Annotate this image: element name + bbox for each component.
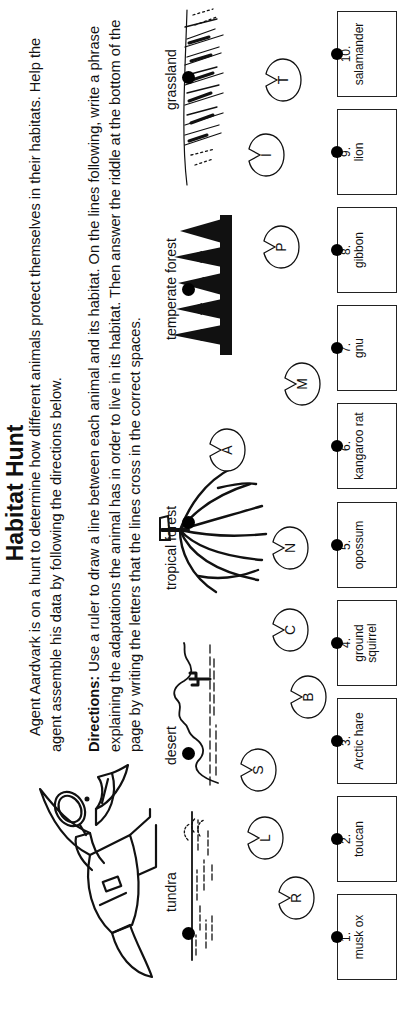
animal-name: kangaroo rat — [353, 412, 366, 479]
lily-pad-letter-t: T — [263, 57, 303, 103]
habitat-dot-tundra[interactable] — [182, 927, 195, 940]
animal-name: opossum — [353, 521, 366, 570]
animal-name: lion — [353, 143, 366, 162]
animal-name: gnu — [353, 338, 366, 358]
animal-dot-10[interactable] — [331, 48, 343, 60]
pad-letter: B — [300, 674, 316, 720]
animal-name: salamander — [353, 23, 366, 86]
animal-box-9: 9. lion — [337, 109, 397, 195]
animal-dot-4[interactable] — [331, 637, 343, 649]
habitat-dot-temperate-forest[interactable] — [182, 283, 195, 296]
animal-box-3: 3. Arctic hare — [337, 698, 397, 784]
lily-pad-letter-m: M — [282, 361, 322, 407]
animal-dot-6[interactable] — [331, 440, 343, 452]
animal-dot-2[interactable] — [331, 833, 343, 845]
lily-pad-letter-n: N — [270, 525, 310, 571]
intro-paragraph: Agent Aardvark is on a hunt to determine… — [25, 6, 66, 752]
pad-letter: R — [288, 875, 304, 921]
habitat-label-tundra: tundra — [163, 872, 179, 912]
animal-name: toucan — [353, 821, 366, 857]
animal-name: Arctic hare — [353, 712, 366, 769]
temperate-forest-illustration — [172, 215, 234, 355]
pad-letter: S — [250, 747, 266, 793]
animal-box-7: 7. gnu — [337, 305, 397, 391]
pad-letter: A — [219, 427, 235, 473]
aardvark-detective-icon — [0, 760, 165, 985]
animal-dot-7[interactable] — [331, 342, 343, 354]
directions-text: Use a ruler to draw a line between each … — [86, 20, 143, 752]
lily-pad-letter-b: B — [288, 674, 328, 720]
pad-letter: P — [273, 224, 289, 270]
lily-pad-letter-l: L — [245, 815, 285, 861]
habitat-label-temperate-forest: temperate forest — [163, 238, 179, 340]
animal-box-5: 5. opossum — [337, 502, 397, 588]
pad-letter: I — [258, 132, 274, 178]
habitat-dot-tropical-forest[interactable] — [182, 516, 195, 529]
animal-name: musk ox — [353, 915, 366, 960]
worksheet-page: Habitat Hunt Agent Aardvark is on a hunt… — [0, 0, 414, 1010]
lily-pad-letter-a: A — [207, 427, 247, 473]
animal-box-6: 6. kangaroo rat — [337, 403, 397, 489]
animal-box-4: 4. ground squirrel — [337, 600, 397, 686]
pad-letter: M — [294, 361, 310, 407]
animal-box-10: 10. salamander — [337, 11, 397, 97]
animal-dot-5[interactable] — [331, 539, 343, 551]
habitat-label-tropical-forest: tropical forest — [163, 506, 179, 590]
animal-name: gibbon — [353, 232, 366, 268]
animal-dot-3[interactable] — [331, 735, 343, 747]
animal-dot-8[interactable] — [331, 244, 343, 256]
lily-pad-letter-r: R — [276, 875, 316, 921]
page-title: Habitat Hunt — [3, 413, 27, 573]
habitat-dot-desert[interactable] — [182, 747, 195, 760]
directions-paragraph: Directions: Use a ruler to draw a line b… — [84, 6, 146, 752]
habitat-dot-grassland[interactable] — [182, 71, 195, 84]
animal-dot-9[interactable] — [331, 146, 343, 158]
habitat-label-grassland: grassland — [163, 49, 179, 110]
pad-letter: N — [282, 525, 298, 571]
lily-pad-letter-c: C — [270, 607, 310, 653]
animal-dot-1[interactable] — [331, 931, 343, 943]
lily-pad-letter-s: S — [238, 747, 278, 793]
habitat-label-desert: desert — [163, 726, 179, 765]
lily-pad-letter-p: P — [261, 224, 301, 270]
pad-letter: T — [275, 57, 291, 103]
animal-name: ground squirrel — [353, 613, 379, 673]
animal-box-8: 8. gibbon — [337, 207, 397, 293]
lily-pad-letter-i: I — [246, 132, 286, 178]
directions-label: Directions: — [86, 676, 102, 752]
pad-letter: C — [282, 607, 298, 653]
animal-box-1: 1. musk ox — [337, 894, 397, 980]
pad-letter: L — [257, 815, 273, 861]
grassland-illustration — [183, 5, 225, 185]
animal-box-2: 2. toucan — [337, 796, 397, 882]
